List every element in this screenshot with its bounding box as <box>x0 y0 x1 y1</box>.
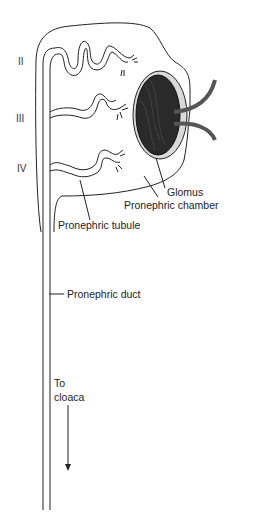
glomus-label: Glomus <box>167 186 203 198</box>
tubule-iv <box>50 150 118 170</box>
duct-label: Pronephric duct <box>67 288 141 300</box>
segment-label-ii: II <box>18 56 24 67</box>
cloaca-label-line1: To <box>54 377 65 389</box>
cloaca-label-line2: cloaca <box>54 391 84 403</box>
tubule-ii <box>55 41 130 68</box>
tubule-label: Pronephric tubule <box>58 219 140 231</box>
chamber-label: Pronephric chamber <box>124 199 219 211</box>
segment-label-iii: III <box>16 113 24 124</box>
segment-label-iv: IV <box>17 163 26 174</box>
pronephros-diagram <box>0 0 275 524</box>
